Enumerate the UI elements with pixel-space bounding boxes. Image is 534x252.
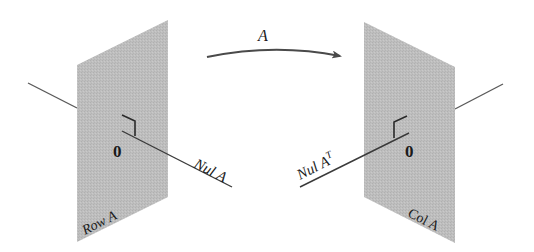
origin-label-right: 0 xyxy=(405,142,414,161)
fundamental-subspaces-diagram: 0 Nul A Row A A 0 Nul AT Col A xyxy=(0,0,534,252)
origin-label-left: 0 xyxy=(113,142,122,161)
row-space-normal-line-back xyxy=(28,83,77,108)
transformation-arrow xyxy=(207,50,340,57)
left-null-space-label: Nul AT xyxy=(292,148,338,183)
column-space-normal-line-back xyxy=(455,84,503,109)
transformation-label: A xyxy=(257,27,268,44)
null-space-label: Nul A xyxy=(191,155,230,186)
